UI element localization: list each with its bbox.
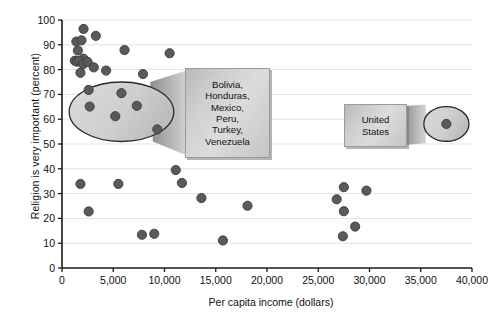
data-point: [114, 179, 123, 188]
data-point: [76, 68, 85, 77]
usa-callout-box: United States: [344, 104, 407, 147]
data-point: [442, 119, 451, 128]
data-point: [150, 229, 159, 238]
data-point: [117, 89, 126, 98]
data-point: [101, 66, 110, 75]
data-point: [332, 195, 341, 204]
callout-line: States: [362, 126, 390, 137]
callout-line: Venezuela: [205, 136, 250, 147]
data-point: [138, 69, 147, 78]
data-point: [120, 45, 129, 54]
scatter-chart: Religion is very important (percent) Per…: [0, 0, 490, 322]
usa-callout-text: United States: [358, 114, 394, 137]
plot-area: [0, 0, 490, 322]
callout-line: Bolivia,: [205, 79, 250, 90]
callout-line: Honduras,: [205, 90, 250, 101]
usa-connector: [404, 105, 426, 145]
data-point: [111, 112, 120, 121]
data-point: [91, 31, 100, 40]
data-point: [84, 207, 93, 216]
data-point: [339, 183, 348, 192]
data-point: [79, 24, 88, 33]
data-point: [84, 85, 93, 94]
data-point: [165, 49, 174, 58]
cluster-callout-box: Bolivia, Honduras, Mexico, Peru, Turkey,…: [185, 68, 270, 158]
data-point: [137, 230, 146, 239]
data-point: [77, 36, 86, 45]
data-point: [153, 125, 162, 134]
data-point: [243, 201, 252, 210]
data-point: [76, 179, 85, 188]
data-point: [339, 207, 348, 216]
callout-line: Peru,: [205, 113, 250, 124]
data-point: [177, 178, 186, 187]
data-point: [73, 46, 82, 55]
callout-line: Turkey,: [205, 124, 250, 135]
data-point: [197, 193, 206, 202]
data-point: [362, 186, 371, 195]
data-point: [85, 102, 94, 111]
callout-line: United: [362, 114, 390, 125]
data-point: [132, 101, 141, 110]
callout-line: Mexico,: [205, 102, 250, 113]
data-point: [351, 222, 360, 231]
data-point: [89, 63, 98, 72]
data-point: [171, 165, 180, 174]
data-point: [338, 232, 347, 241]
cluster-callout-text: Bolivia, Honduras, Mexico, Peru, Turkey,…: [201, 79, 254, 147]
data-point: [218, 236, 227, 245]
